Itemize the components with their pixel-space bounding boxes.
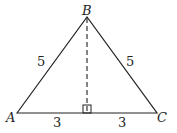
- side-label-bc: 5: [126, 54, 134, 69]
- segment-label-left: 3: [53, 115, 61, 130]
- side-label-ab: 5: [37, 54, 45, 69]
- triangle-figure: B A C 5 5 3 3: [0, 0, 177, 133]
- triangle-diagram: B A C 5 5 3 3: [0, 0, 177, 133]
- vertex-label-a: A: [5, 110, 15, 125]
- segment-label-right: 3: [118, 115, 126, 130]
- vertex-label-c: C: [157, 110, 167, 125]
- vertex-label-b: B: [81, 3, 92, 18]
